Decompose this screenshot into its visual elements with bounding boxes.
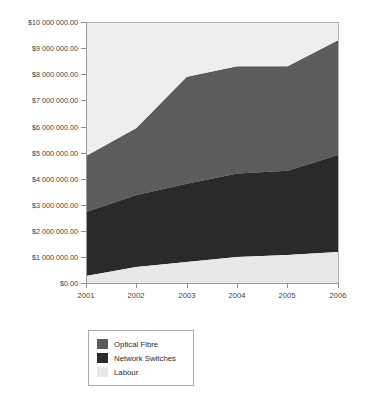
y-tick-label-0: $0.00 [60,279,78,288]
stacked-area-chart: $10 000 000.00 $9 000 000.00 $8 000 000.… [0,0,365,417]
x-tick-label-2005: 2005 [279,291,296,300]
x-tick-label-2006: 2006 [330,291,347,300]
legend-label-optical-fibre: Optical Fibre [114,340,158,349]
y-tick-label-3m: $3 000 000.00 [32,201,78,210]
y-tick-label-10m: $10 000 000.00 [28,18,78,27]
legend-swatch-network-switches [97,353,108,363]
x-tick-label-2003: 2003 [179,291,196,300]
y-tick-label-9m: $9 000 000.00 [32,44,78,53]
chart-legend: Optical Fibre Network Switches Labour [88,330,193,385]
x-tick-label-2004: 2004 [229,291,246,300]
x-tick-label-2002: 2002 [128,291,145,300]
y-tick-label-1m: $1 000 000.00 [32,253,78,262]
y-tick-label-7m: $7 000 000.00 [32,96,78,105]
legend-swatch-labour [97,367,108,377]
x-tick-label-2001: 2001 [78,291,95,300]
legend-label-labour: Labour [114,368,139,377]
y-tick-label-5m: $5 000 000.00 [32,149,78,158]
x-tick-marks [86,283,338,288]
chart-canvas: $10 000 000.00 $9 000 000.00 $8 000 000.… [0,0,365,417]
y-tick-label-2m: $2 000 000.00 [32,227,78,236]
y-tick-marks [81,22,86,283]
y-tick-label-4m: $4 000 000.00 [32,175,78,184]
legend-swatch-optical-fibre [97,339,108,349]
legend-label-network-switches: Network Switches [114,354,176,363]
y-tick-label-8m: $8 000 000.00 [32,70,78,79]
y-tick-label-6m: $6 000 000.00 [32,123,78,132]
